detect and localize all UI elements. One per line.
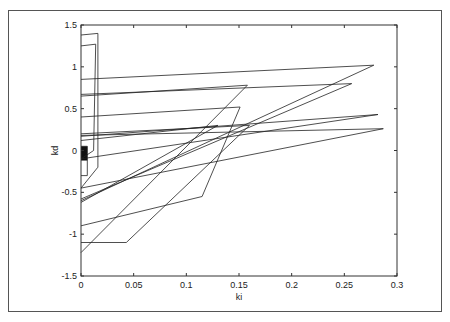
series-line xyxy=(81,84,352,199)
x-tick-label: 0.2 xyxy=(285,280,298,290)
axes-box xyxy=(81,25,397,276)
x-axis-label: ki xyxy=(236,292,243,302)
x-tick-label: 0.1 xyxy=(180,280,193,290)
series-line xyxy=(81,107,240,226)
series-line xyxy=(81,44,96,159)
y-tick-label: 1 xyxy=(72,62,77,72)
line-chart: 00.050.10.150.20.250.3 1.510.50-0.5-1-1.… xyxy=(0,0,450,322)
series-line xyxy=(81,85,247,252)
series-line xyxy=(81,125,218,202)
plot-lines xyxy=(81,33,383,252)
y-tick-label: -1.5 xyxy=(61,271,77,281)
y-tick-label: -0.5 xyxy=(61,187,77,197)
y-tick-label: -1 xyxy=(69,229,77,239)
y-tick-label: 1.5 xyxy=(64,20,77,30)
x-tick-label: 0.05 xyxy=(125,280,143,290)
series-line xyxy=(81,125,250,242)
series-line xyxy=(81,115,378,159)
series-line xyxy=(81,129,383,188)
y-axis-label: kd xyxy=(50,146,60,156)
x-tick-label: 0.25 xyxy=(336,280,354,290)
x-tick-label: 0.3 xyxy=(391,280,404,290)
x-tick-label: 0.15 xyxy=(230,280,248,290)
x-tick-label: 0 xyxy=(78,280,83,290)
y-tick-label: 0 xyxy=(72,146,77,156)
x-axis-ticks: 00.050.10.150.20.250.3 xyxy=(78,25,403,290)
y-axis-ticks: 1.510.50-0.5-1-1.5 xyxy=(61,20,397,281)
y-tick-label: 0.5 xyxy=(64,104,77,114)
